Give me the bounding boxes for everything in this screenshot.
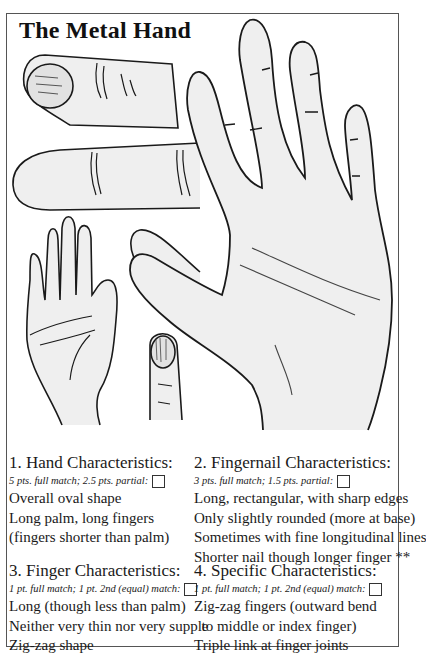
list-item: Only slightly rounded (more at base) bbox=[194, 509, 426, 529]
list-item: Zig-zag shape bbox=[9, 636, 209, 656]
list-item: Triple link at finger joints bbox=[194, 636, 382, 656]
section-hand-characteristics: 1. Hand Characteristics: 5 pts. full mat… bbox=[9, 453, 173, 548]
scoring-rule: 5 pts. full match; 2.5 pts. partial: bbox=[9, 473, 173, 489]
list-item: Neither very thin nor very supple bbox=[9, 617, 209, 637]
section-heading: 4. Specific Characteristics: bbox=[194, 561, 382, 581]
fingernail-drawing-icon bbox=[150, 334, 182, 420]
section-heading: 3. Finger Characteristics: bbox=[9, 561, 209, 581]
scoring-text: 1 pt. full match; 1 pt. 2nd (equal) matc… bbox=[9, 581, 180, 597]
list-item: Zig-zag fingers (outward bend bbox=[194, 597, 382, 617]
score-checkbox[interactable] bbox=[337, 475, 350, 488]
thumb-drawing-icon bbox=[24, 55, 178, 128]
scoring-text: 3 pts. full match; 1.5 pts. partial: bbox=[194, 473, 333, 489]
list-item: (fingers shorter than palm) bbox=[9, 528, 173, 548]
section-fingernail-characteristics: 2. Fingernail Characteristics: 3 pts. fu… bbox=[194, 453, 426, 567]
scoring-text: 1 pt. full match; 1 pt. 2nd (equal) matc… bbox=[194, 581, 365, 597]
section-specific-characteristics: 4. Specific Characteristics: 1 pt. full … bbox=[194, 561, 382, 656]
section-heading: 2. Fingernail Characteristics: bbox=[194, 453, 426, 473]
list-item: Long (though less than palm) bbox=[9, 597, 209, 617]
scoring-rule: 1 pt. full match; 1 pt. 2nd (equal) matc… bbox=[194, 581, 382, 597]
scoring-rule: 3 pts. full match; 1.5 pts. partial: bbox=[194, 473, 426, 489]
section-finger-characteristics: 3. Finger Characteristics: 1 pt. full ma… bbox=[9, 561, 209, 656]
hand-illustrations bbox=[0, 0, 403, 452]
finger-side-drawing-icon bbox=[13, 143, 200, 210]
small-palm-drawing-icon bbox=[27, 217, 117, 425]
score-checkbox[interactable] bbox=[369, 583, 382, 596]
list-item: Sometimes with fine longitudinal lines bbox=[194, 528, 426, 548]
scoring-text: 5 pts. full match; 2.5 pts. partial: bbox=[9, 473, 148, 489]
list-item: Long palm, long fingers bbox=[9, 509, 173, 529]
list-item: Overall oval shape bbox=[9, 489, 173, 509]
list-item: Long, rectangular, with sharp edges bbox=[194, 489, 426, 509]
list-item: to middle or index finger) bbox=[194, 617, 382, 637]
scoring-rule: 1 pt. full match; 1 pt. 2nd (equal) matc… bbox=[9, 581, 209, 597]
section-heading: 1. Hand Characteristics: bbox=[9, 453, 173, 473]
score-checkbox[interactable] bbox=[152, 475, 165, 488]
